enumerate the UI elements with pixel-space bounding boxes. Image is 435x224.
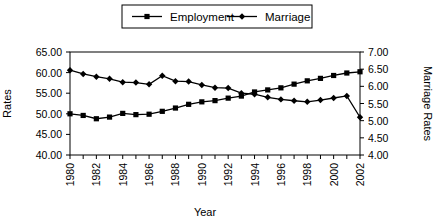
data-point-marriage-2001 [344, 93, 350, 99]
legend-label-employment: Employment [170, 11, 235, 23]
x-axis-title: Year [194, 206, 217, 218]
data-point-employment-1998 [305, 78, 310, 83]
data-point-marriage-1985 [133, 79, 139, 85]
left-axis-tick-label: 55.00 [36, 87, 62, 99]
data-point-employment-1980 [67, 111, 72, 116]
data-point-employment-2002 [357, 69, 362, 74]
right-axis-tick-label: 6.50 [368, 63, 389, 75]
x-axis-tick-label: 1982 [90, 163, 102, 187]
x-axis-tick-label: 1988 [169, 163, 181, 187]
data-point-marriage-1983 [106, 76, 112, 82]
data-point-employment-1990 [199, 99, 204, 104]
data-point-marriage-1991 [212, 85, 218, 91]
series-employment [67, 69, 362, 121]
data-point-marriage-2002 [357, 114, 363, 120]
series-marriage [67, 67, 363, 120]
x-axis: 1980198219841986198819901992199419961998… [64, 155, 366, 186]
data-point-employment-1987 [160, 109, 165, 114]
right-axis-tick-label: 7.00 [368, 46, 389, 58]
x-axis-tick-label: 1998 [301, 163, 313, 187]
legend: EmploymentMarriage [122, 5, 312, 28]
right-axis-title: Marriage Rates [422, 66, 434, 142]
data-point-employment-1997 [291, 82, 296, 87]
right-axis-tick-label: 5.50 [368, 98, 389, 110]
series-line-employment [70, 72, 360, 119]
data-point-marriage-1986 [146, 81, 152, 87]
data-point-marriage-1981 [80, 71, 86, 77]
data-point-employment-1996 [278, 85, 283, 90]
x-axis-tick-label: 1994 [249, 163, 261, 187]
data-point-employment-2001 [344, 70, 349, 75]
left-axis-title: Rates [1, 89, 13, 118]
data-point-marriage-1987 [159, 72, 165, 78]
x-axis-tick-label: 1980 [64, 163, 76, 187]
data-point-marriage-2000 [330, 95, 336, 101]
data-point-employment-1981 [81, 113, 86, 118]
right-axis-tick-label: 5.00 [368, 115, 389, 127]
left-axis-tick-label: 45.00 [36, 128, 62, 140]
data-point-employment-1982 [94, 116, 99, 121]
x-axis-tick-label: 1984 [117, 163, 129, 187]
data-point-marriage-1984 [120, 79, 126, 85]
left-axis-tick-label: 60.00 [36, 67, 62, 79]
data-point-employment-1995 [265, 87, 270, 92]
left-axis-tick-label: 50.00 [36, 108, 62, 120]
right-axis-tick-label: 4.00 [368, 149, 389, 161]
x-axis-tick-label: 1986 [143, 163, 155, 187]
data-point-marriage-1992 [225, 85, 231, 91]
data-point-marriage-1998 [304, 99, 310, 105]
data-point-marriage-1997 [291, 98, 297, 104]
data-point-employment-1983 [107, 114, 112, 119]
data-point-marriage-1999 [317, 97, 323, 103]
data-point-employment-1999 [318, 76, 323, 81]
right-axis: 4.004.505.005.506.006.507.00 [360, 46, 389, 161]
data-point-marriage-1995 [265, 94, 271, 100]
legend-marker-employment [144, 14, 149, 19]
chart-container: 40.0045.0050.0055.0060.0065.00Rates4.004… [0, 0, 435, 224]
data-point-employment-1985 [133, 112, 138, 117]
plot-area-frame [70, 52, 360, 155]
legend-label-marriage: Marriage [265, 11, 310, 23]
data-point-marriage-1996 [278, 96, 284, 102]
x-axis-tick-label: 2000 [328, 163, 340, 187]
x-axis-tick-label: 1990 [196, 163, 208, 187]
data-point-marriage-1989 [185, 78, 191, 84]
series-line-marriage [70, 70, 360, 117]
data-point-employment-1991 [212, 98, 217, 103]
right-axis-tick-label: 4.50 [368, 132, 389, 144]
left-axis: 40.0045.0050.0055.0060.0065.00 [36, 46, 70, 161]
data-point-marriage-1988 [172, 78, 178, 84]
line-chart: 40.0045.0050.0055.0060.0065.00Rates4.004… [0, 0, 435, 224]
x-axis-tick-label: 1992 [222, 163, 234, 187]
left-axis-tick-label: 40.00 [36, 149, 62, 161]
left-axis-tick-label: 65.00 [36, 46, 62, 58]
x-axis-tick-label: 2002 [354, 163, 366, 187]
data-point-employment-1992 [226, 96, 231, 101]
right-axis-tick-label: 6.00 [368, 80, 389, 92]
data-point-employment-2000 [331, 73, 336, 78]
data-point-employment-1986 [146, 112, 151, 117]
data-point-marriage-1990 [199, 82, 205, 88]
data-point-employment-1984 [120, 111, 125, 116]
data-point-marriage-1982 [93, 74, 99, 80]
x-axis-tick-label: 1996 [275, 163, 287, 187]
data-point-employment-1989 [186, 102, 191, 107]
data-point-employment-1988 [173, 105, 178, 110]
